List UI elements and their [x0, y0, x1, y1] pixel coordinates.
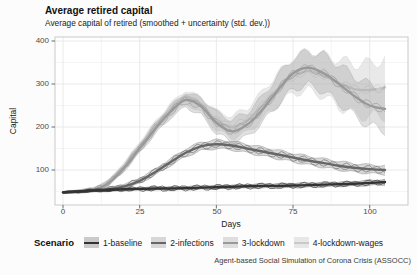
x-tick-75: 75: [281, 207, 305, 216]
legend: Scenario 1-baseline2-infections3-lockdow…: [0, 237, 417, 248]
legend-item-label: 1-baseline: [103, 238, 142, 248]
legend-item-4: 4-lockdown-wages: [294, 237, 383, 248]
x-tick-0: 0: [51, 207, 75, 216]
legend-key-icon: [84, 237, 99, 248]
legend-title: Scenario: [34, 237, 74, 248]
x-tick-100: 100: [358, 207, 382, 216]
legend-key-icon: [223, 237, 238, 248]
chart-figure: Average retired capital Average capital …: [0, 0, 417, 275]
legend-item-1: 1-baseline: [84, 237, 142, 248]
legend-items: 1-baseline2-infections3-lockdown4-lockdo…: [84, 237, 383, 248]
x-axis-label: Days: [201, 219, 261, 229]
y-axis-label: Capital: [8, 91, 20, 151]
y-tick-300: 300: [24, 79, 49, 88]
legend-item-label: 4-lockdown-wages: [313, 238, 383, 248]
legend-key-icon: [151, 237, 166, 248]
legend-item-label: 3-lockdown: [242, 238, 285, 248]
source-caption: Agent-based Social Simulation of Corona …: [214, 256, 411, 265]
legend-item-label: 2-infections: [170, 238, 213, 248]
legend-key-icon: [294, 237, 309, 248]
y-tick-200: 200: [24, 122, 49, 131]
plot-panel: [0, 0, 417, 275]
chart-subtitle: Average capital of retired (smoothed + u…: [45, 18, 270, 28]
y-tick-400: 400: [24, 36, 49, 45]
x-tick-50: 50: [205, 207, 229, 216]
chart-title: Average retired capital: [45, 5, 152, 16]
legend-item-3: 3-lockdown: [223, 237, 285, 248]
y-tick-100: 100: [24, 165, 49, 174]
x-tick-25: 25: [128, 207, 152, 216]
legend-item-2: 2-infections: [151, 237, 213, 248]
